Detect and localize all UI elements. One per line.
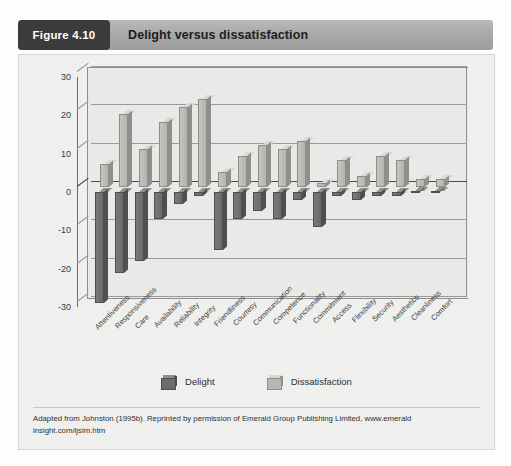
bar-dissatisfaction-availability[interactable] (159, 122, 168, 187)
y-tick-label-20: 20 (61, 110, 71, 120)
chart-card: 3020100-10-20-30 AttentivenessResponsive… (18, 54, 495, 450)
bar-dissatisfaction-aesthetics[interactable] (396, 160, 405, 187)
bar-delight-commitment[interactable] (313, 192, 322, 227)
bar-delight-attentiveness[interactable] (95, 192, 104, 303)
bar-dissatisfaction-courtesy[interactable] (238, 156, 247, 187)
y-tick-label-30: 30 (61, 72, 71, 82)
figure-page: Figure 4.10 Delight versus dissatisfacti… (0, 0, 511, 466)
y-tick-label--30: -30 (58, 302, 71, 312)
bar-delight-flexibility[interactable] (352, 192, 361, 200)
chart-legend: Delight Dissatisfaction (19, 375, 494, 388)
bar-dissatisfaction-cleanliness[interactable] (416, 179, 425, 187)
bar-dissatisfaction-integrity[interactable] (198, 99, 207, 187)
figure-title: Delight versus dissatisfaction (128, 28, 308, 42)
x-axis-category-labels: AttentivenessResponsivenessCareAvailabil… (77, 313, 477, 383)
bar-dissatisfaction-competence[interactable] (278, 149, 287, 187)
bar-delight-availability[interactable] (154, 192, 163, 219)
bar-delight-comfort[interactable] (431, 191, 440, 192)
bar-dissatisfaction-security[interactable] (376, 156, 385, 187)
bar-delight-aesthetics[interactable] (392, 192, 401, 196)
footnote-divider (33, 407, 480, 408)
bar-delight-courtesy[interactable] (233, 192, 242, 219)
bar-dissatisfaction-communication[interactable] (258, 145, 267, 187)
bar-dissatisfaction-functionality[interactable] (297, 141, 306, 187)
bar-delight-reliability[interactable] (174, 192, 183, 204)
figure-number-badge: Figure 4.10 (18, 20, 110, 50)
bar-dissatisfaction-access[interactable] (337, 160, 346, 187)
bar-delight-security[interactable] (372, 192, 381, 196)
bar-delight-cleanliness[interactable] (411, 191, 420, 192)
x-label-care: Care (133, 312, 151, 330)
y-tick-label-10: 10 (61, 149, 71, 159)
bar-dissatisfaction-reliability[interactable] (179, 107, 188, 188)
bar-delight-competence[interactable] (273, 192, 282, 219)
bar-dissatisfaction-commitment[interactable] (317, 183, 326, 187)
legend-item-delight: Delight (161, 375, 215, 388)
bar-delight-friendliness[interactable] (214, 192, 223, 250)
legend-item-dissatisfaction: Dissatisfaction (267, 375, 352, 388)
bar-delight-access[interactable] (332, 192, 341, 196)
bar-series-container (77, 77, 467, 307)
dark-cube-icon (161, 375, 176, 388)
y-tick-label--20: -20 (58, 264, 71, 274)
legend-label-dissatisfaction: Dissatisfaction (291, 376, 352, 387)
figure-header: Figure 4.10 Delight versus dissatisfacti… (18, 20, 493, 50)
bar-dissatisfaction-friendliness[interactable] (218, 172, 227, 187)
bar-delight-communication[interactable] (253, 192, 262, 211)
figure-source-footnote: Adapted from Johnston (1995b). Reprinted… (33, 413, 480, 437)
bar-dissatisfaction-flexibility[interactable] (357, 176, 366, 188)
figure-number-label: Figure 4.10 (33, 29, 96, 41)
y-tick-label-0: 0 (66, 187, 71, 197)
y-tick-label--10: -10 (58, 225, 71, 235)
chart-plot-area: 3020100-10-20-30 (77, 77, 467, 307)
bar-dissatisfaction-attentiveness[interactable] (100, 164, 109, 187)
bar-dissatisfaction-comfort[interactable] (436, 179, 445, 187)
bar-delight-functionality[interactable] (293, 192, 302, 200)
legend-label-delight: Delight (185, 376, 215, 387)
bar-dissatisfaction-responsiveness[interactable] (119, 114, 128, 187)
bar-dissatisfaction-care[interactable] (139, 149, 148, 187)
bar-delight-care[interactable] (135, 192, 144, 261)
bar-delight-integrity[interactable] (194, 192, 203, 196)
gridline-30 (91, 66, 467, 67)
bar-delight-responsiveness[interactable] (115, 192, 124, 273)
light-cube-icon (267, 375, 282, 388)
